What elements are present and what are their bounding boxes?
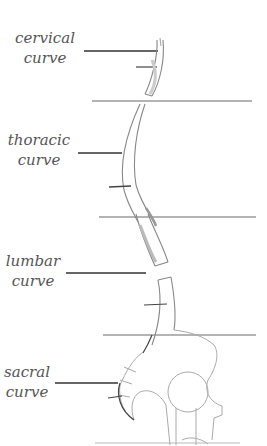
pelvis-sacrum: [118, 330, 222, 445]
thoracic-vertebrae: [109, 104, 156, 226]
guide-lines: [92, 101, 256, 443]
spine-sketch: [0, 0, 267, 446]
lumbar-upper-vertebrae: [136, 214, 168, 266]
lumbar-lower-vertebrae: [143, 277, 175, 353]
cervical-vertebrae: [136, 38, 163, 96]
